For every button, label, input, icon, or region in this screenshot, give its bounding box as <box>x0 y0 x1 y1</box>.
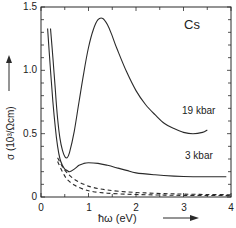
x-tick-1: 1 <box>83 203 95 213</box>
chart-title: Cs <box>184 20 200 30</box>
axes-frame <box>41 7 231 197</box>
y-tick-0.5: 0.5 <box>13 129 37 139</box>
x-axis-label: ħω (eV) <box>98 212 137 224</box>
x-tick-0: 0 <box>35 203 47 213</box>
x-tick-4: 4 <box>225 203 236 213</box>
y-tick-1.5: 1.5 <box>13 2 37 12</box>
axis-ticks <box>41 7 231 197</box>
y-tick-0: 0 <box>13 192 37 202</box>
x-tick-3: 3 <box>178 203 190 213</box>
y-axis-label: σ (10³/Ωcm) <box>5 106 16 160</box>
series-19-kbar <box>51 18 208 158</box>
series-drude-fit-3-kbar <box>58 162 231 196</box>
curve-label-3kbar: 3 kbar <box>185 151 213 161</box>
curve-label-19kbar: 19 kbar <box>182 106 215 116</box>
y-axis-arrowhead-icon <box>6 55 12 63</box>
y-tick-1.0: 1.0 <box>13 65 37 75</box>
x-axis-arrowhead-icon <box>190 215 199 221</box>
